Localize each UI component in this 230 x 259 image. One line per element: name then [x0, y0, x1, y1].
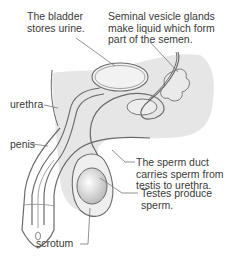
label-scrotum: scrotum	[36, 238, 73, 250]
label-penis: penis	[10, 139, 35, 151]
label-bladder: The bladder stores urine.	[27, 11, 85, 34]
bladder	[92, 63, 148, 91]
label-seminal-vesicle: Seminal vesicle glands make liquid which…	[108, 11, 215, 46]
testis	[77, 168, 107, 204]
prostate	[127, 99, 157, 115]
label-testes: Testes produce sperm.	[141, 188, 212, 211]
label-urethra: urethra	[10, 99, 43, 111]
